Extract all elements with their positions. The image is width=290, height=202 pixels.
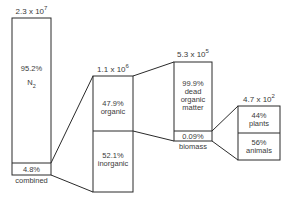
connector-line (212, 106, 238, 131)
box-combined-upper-label: organic (101, 107, 126, 116)
box-combined-outline (93, 76, 133, 192)
box-organic-upper-label-3: matter (182, 103, 204, 112)
box-total-upper-label: N2 (27, 78, 35, 89)
box-total-upper-percent: 95.2% (21, 64, 43, 73)
nitrogen-diagram: 2.3 x 107 95.2% N2 4.8% combined 1.1 x 1… (0, 0, 290, 202)
box-biomass-lower-label: animals (246, 146, 272, 155)
box-total-outline (12, 18, 51, 175)
box-biomass-upper-label: plants (249, 119, 269, 128)
box-total-lower-percent: 4.8% (23, 165, 40, 174)
box-total-below-label: combined (15, 176, 48, 185)
connector-line (51, 76, 93, 163)
box-biomass-value: 4.7 x 102 (243, 93, 275, 104)
connector-line (212, 141, 238, 160)
box-total-value: 2.3 x 107 (16, 5, 48, 16)
connector-line (133, 131, 174, 141)
connector-line (133, 62, 174, 76)
box-organic-lower-percent: 0.09% (182, 132, 204, 141)
box-combined-value: 1.1 x 106 (97, 63, 129, 74)
box-combined-lower-label: inorganic (98, 159, 129, 168)
connector-line (51, 175, 93, 192)
box-organic-value: 5.3 x 105 (177, 48, 209, 59)
box-organic-below-label: biomass (179, 142, 207, 151)
